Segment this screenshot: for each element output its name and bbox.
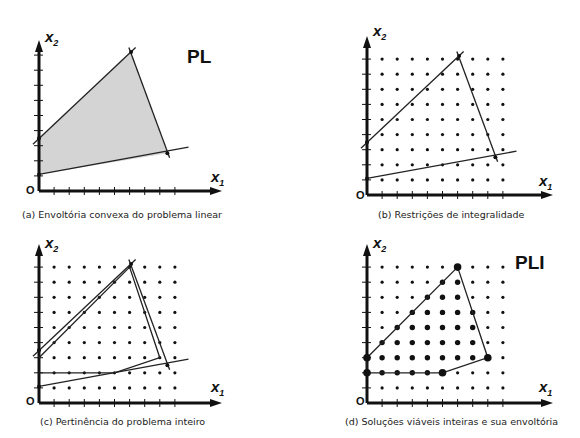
x2-axis-label: x2 [373, 234, 386, 254]
integer-point [486, 178, 489, 181]
integer-point [501, 266, 504, 269]
integer-point [471, 103, 474, 106]
integer-point [471, 73, 474, 76]
integer-point [486, 296, 489, 299]
integer-point [158, 311, 161, 314]
integer-point [83, 386, 86, 389]
integer-point [143, 266, 146, 269]
integer-point [98, 326, 101, 329]
integer-point [486, 326, 489, 329]
feasible-integer-point [410, 340, 415, 345]
feasible-integer-point [425, 310, 430, 315]
integer-point [128, 296, 131, 299]
integer-point [113, 341, 116, 344]
integer-point [396, 88, 399, 91]
integer-point [68, 356, 71, 359]
integer-point [426, 386, 429, 389]
feasible-integer-point [470, 325, 475, 330]
integer-point [98, 356, 101, 359]
lp-vertex [129, 50, 133, 54]
integer-point [486, 88, 489, 91]
integer-point [486, 103, 489, 106]
integer-point [173, 281, 176, 284]
integer-point [411, 148, 414, 151]
integer-point [143, 326, 146, 329]
lp-vertex [493, 155, 497, 159]
feasible-integer-point [470, 355, 475, 360]
feasible-integer-point [455, 325, 460, 330]
integer-point [486, 148, 489, 151]
integer-point [53, 326, 56, 329]
integer-point [173, 386, 176, 389]
integer-point [471, 133, 474, 136]
integer-point [396, 58, 399, 61]
integer-point [471, 386, 474, 389]
integer-point [98, 266, 101, 269]
x2-axis-arrow-icon [35, 40, 43, 52]
integer-point [396, 133, 399, 136]
panel-c-integer-membership: x2 x1 O (c) Pertinência do problema inte… [0, 219, 290, 438]
x2-axis-arrow-icon [35, 244, 43, 256]
integer-point [68, 311, 71, 314]
integer-point [456, 178, 459, 181]
feasible-integer-point [395, 340, 400, 345]
integer-point [486, 163, 489, 166]
integer-point [143, 371, 146, 374]
hull-vertex [439, 369, 447, 377]
integer-point [396, 103, 399, 106]
integer-point [381, 133, 384, 136]
integer-point [381, 281, 384, 284]
pl-tag: PL [187, 46, 211, 68]
integer-point [411, 266, 414, 269]
integer-point [396, 163, 399, 166]
feasible-integer-point [440, 310, 445, 315]
integer-point [441, 178, 444, 181]
integer-point [128, 386, 131, 389]
integer-point [456, 386, 459, 389]
integer-point [173, 341, 176, 344]
integer-point [158, 386, 161, 389]
x2-axis-label: x2 [45, 234, 58, 254]
integer-point [501, 356, 504, 359]
integer-point [426, 281, 429, 284]
integer-point [128, 371, 131, 374]
integer-point [381, 266, 384, 269]
integer-point [113, 266, 116, 269]
hull-vertex [363, 354, 371, 362]
integer-point [128, 281, 131, 284]
integer-point [411, 163, 414, 166]
x1-axis-label: x1 [539, 378, 552, 398]
integer-point [486, 58, 489, 61]
x1-axis-arrow-icon [210, 187, 222, 195]
integer-point [143, 386, 146, 389]
panel-b-plot [290, 0, 580, 219]
lp-vertex [165, 363, 169, 367]
integer-point [456, 163, 459, 166]
integer-point [83, 341, 86, 344]
integer-point [486, 386, 489, 389]
lp-vertex [37, 348, 41, 352]
integer-point [471, 178, 474, 181]
integer-point [143, 281, 146, 284]
feasible-integer-point [425, 325, 430, 330]
feasible-integer-point [455, 340, 460, 345]
integer-point [411, 73, 414, 76]
integer-point [143, 341, 146, 344]
hull-vertex [484, 354, 492, 362]
integer-point [426, 103, 429, 106]
x1-axis-arrow-icon [541, 399, 553, 407]
integer-point [441, 118, 444, 121]
integer-point [501, 88, 504, 91]
x2-axis-arrow-icon [363, 244, 371, 256]
integer-point [68, 266, 71, 269]
integer-point [426, 163, 429, 166]
integer-point [471, 296, 474, 299]
integer-point [68, 341, 71, 344]
integer-point [456, 118, 459, 121]
integer-point [471, 266, 474, 269]
panel-b-integrality-constraints: x2 x1 O (b) Restrições de integralidade [290, 0, 580, 219]
integer-point [53, 266, 56, 269]
integer-point [456, 371, 459, 374]
lp-vertex [365, 140, 369, 144]
integer-point [501, 281, 504, 284]
